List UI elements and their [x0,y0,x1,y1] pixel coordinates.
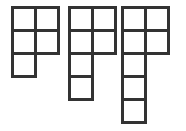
polyomino-cell [69,76,92,99]
polyomino-cell [12,30,35,53]
polyomino-shape-2 [69,7,115,99]
polyomino-cell [145,30,168,53]
polyomino-cell [92,7,115,30]
polyomino-cell [69,53,92,76]
polyomino-cell [122,76,145,99]
polyomino-cell [35,30,58,53]
polyomino-cell [12,53,35,76]
polyomino-cell [122,30,145,53]
figure-canvas [0,0,186,131]
polyomino-cell [122,53,145,76]
polyomino-cell [92,30,115,53]
polyomino-cell [122,99,145,122]
polyomino-shape-set [0,0,186,131]
polyomino-cell [12,7,35,30]
polyomino-cell [35,7,58,30]
polyomino-shape-1 [12,7,58,76]
polyomino-cell [122,7,145,30]
polyomino-cell [145,7,168,30]
polyomino-cell [69,30,92,53]
polyomino-cell [69,7,92,30]
polyomino-shape-3 [122,7,168,122]
